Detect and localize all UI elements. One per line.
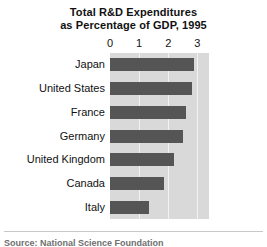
x-tick-label-0: 0 (107, 36, 113, 50)
plot-area (110, 53, 209, 219)
x-tick-label-1: 1 (136, 36, 142, 50)
chart-title-line-2: as Percentage of GDP, 1995 (0, 19, 267, 32)
bars-layer (110, 53, 209, 219)
bar-slot (110, 130, 209, 143)
bar-germany (110, 130, 183, 143)
category-label-united-states: United States (0, 82, 105, 95)
bar-united-states (110, 82, 192, 95)
bar-slot (110, 106, 209, 119)
category-label-france: France (0, 106, 105, 119)
chart-title: Total R&D Expenditures as Percentage of … (0, 6, 267, 32)
bar-slot (110, 177, 209, 190)
bar-slot (110, 82, 209, 95)
bar-slot (110, 153, 209, 166)
footer-divider (4, 231, 263, 232)
category-label-japan: Japan (0, 58, 105, 71)
bar-japan (110, 58, 194, 71)
chart-figure: Total R&D Expenditures as Percentage of … (0, 0, 267, 247)
bar-united-kingdom (110, 153, 174, 166)
bar-italy (110, 201, 149, 214)
source-note: Source: National Science Foundation (4, 238, 164, 247)
x-axis-tick-labels: 0 1 2 3 (110, 36, 209, 50)
chart-title-line-1: Total R&D Expenditures (0, 6, 267, 19)
bar-france (110, 106, 186, 119)
bar-slot (110, 201, 209, 214)
x-tick-label-3: 3 (194, 36, 200, 50)
category-labels: Japan United States France Germany Unite… (0, 53, 105, 219)
category-label-united-kingdom: United Kingdom (0, 153, 105, 166)
category-label-italy: Italy (0, 201, 105, 214)
x-tick-label-2: 2 (165, 36, 171, 50)
bar-slot (110, 58, 209, 71)
bar-canada (110, 177, 164, 190)
category-label-canada: Canada (0, 177, 105, 190)
category-label-germany: Germany (0, 130, 105, 143)
